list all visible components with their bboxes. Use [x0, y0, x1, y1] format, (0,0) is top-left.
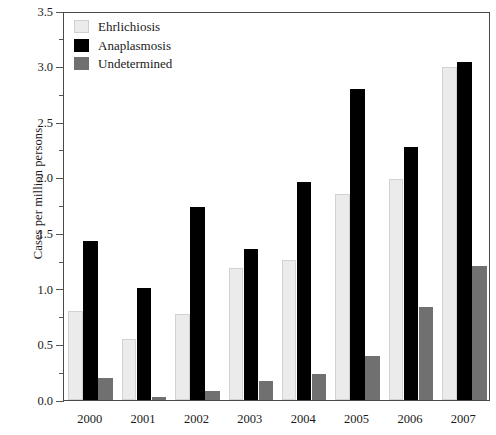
legend-label: Anaplasmosis — [98, 39, 171, 52]
y-axis-tick-label: 3.0 — [37, 61, 56, 74]
bar[interactable] — [205, 391, 220, 400]
x-axis-tick-label: 2000 — [77, 412, 102, 427]
x-axis-tick-label: 2002 — [184, 412, 209, 427]
bar[interactable] — [83, 241, 98, 400]
bar[interactable] — [472, 266, 487, 400]
bar[interactable] — [98, 378, 113, 400]
x-axis-tick-label: 2004 — [291, 412, 316, 427]
y-axis-tick-label: 2.0 — [37, 172, 56, 185]
bar[interactable] — [175, 314, 190, 400]
bar-group — [384, 13, 437, 400]
bar[interactable] — [68, 311, 83, 400]
bar-group — [278, 13, 331, 400]
legend-swatch-icon — [74, 57, 89, 70]
bar[interactable] — [312, 374, 327, 400]
chart-legend: EhrlichiosisAnaplasmosisUndetermined — [74, 19, 172, 71]
y-axis-tick-label: 1.5 — [37, 228, 56, 241]
x-axis-tick-label: 2005 — [344, 412, 369, 427]
legend-item[interactable]: Undetermined — [74, 56, 172, 71]
y-axis: 0.00.51.01.52.02.53.03.5 — [0, 0, 64, 435]
bar[interactable] — [152, 397, 167, 400]
bar[interactable] — [137, 288, 152, 400]
y-axis-tick-label: 2.5 — [37, 116, 56, 129]
bar-group — [224, 13, 277, 400]
bar[interactable] — [419, 307, 434, 400]
x-axis-tick-label: 2001 — [131, 412, 156, 427]
legend-label: Undetermined — [98, 57, 172, 70]
bar[interactable] — [190, 207, 205, 400]
bar[interactable] — [229, 268, 244, 400]
legend-item[interactable]: Ehrlichiosis — [74, 19, 172, 34]
x-axis-tick-label: 2007 — [451, 412, 476, 427]
bar[interactable] — [442, 67, 457, 400]
bar[interactable] — [297, 182, 312, 400]
bar[interactable] — [365, 356, 380, 400]
bar-group — [171, 13, 224, 400]
bar[interactable] — [122, 339, 137, 400]
legend-swatch-icon — [74, 20, 89, 33]
plot-frame: EhrlichiosisAnaplasmosisUndetermined — [63, 12, 490, 401]
legend-item[interactable]: Anaplasmosis — [74, 38, 172, 53]
bar[interactable] — [404, 147, 419, 400]
bar-chart: Cases per million persons 0.00.51.01.52.… — [0, 0, 496, 435]
plot-area — [64, 13, 489, 400]
bar[interactable] — [389, 179, 404, 400]
bar-group — [64, 13, 117, 400]
x-axis: 20002001200220032004200520062007 — [63, 401, 490, 435]
bar-group — [438, 13, 491, 400]
legend-label: Ehrlichiosis — [98, 20, 160, 33]
bar[interactable] — [244, 249, 259, 400]
bar-group — [117, 13, 170, 400]
x-axis-tick-label: 2003 — [237, 412, 262, 427]
bar[interactable] — [282, 260, 297, 400]
y-axis-tick-label: 3.5 — [37, 5, 56, 18]
y-axis-tick-label: 0.5 — [37, 339, 56, 352]
legend-swatch-icon — [74, 39, 89, 52]
y-axis-tick-label: 0.0 — [37, 394, 56, 407]
bar-group — [331, 13, 384, 400]
bar[interactable] — [335, 194, 350, 400]
bar[interactable] — [457, 62, 472, 400]
x-axis-tick-label: 2006 — [397, 412, 422, 427]
bar[interactable] — [350, 89, 365, 400]
bar[interactable] — [259, 381, 274, 400]
y-axis-tick-label: 1.0 — [37, 283, 56, 296]
